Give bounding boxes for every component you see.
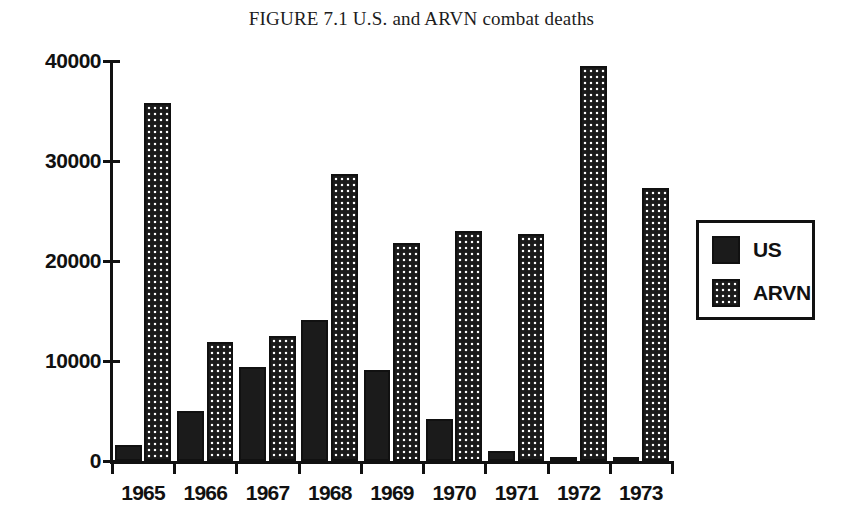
x-axis-tick-label: 1973 bbox=[605, 481, 677, 505]
bar-us-1973 bbox=[613, 457, 640, 461]
bar-arvn-1973 bbox=[642, 188, 669, 461]
x-axis-tick bbox=[671, 461, 674, 474]
bar-arvn-1967 bbox=[269, 336, 296, 461]
legend-label-us: US bbox=[753, 238, 782, 262]
bar-us-1972 bbox=[550, 457, 577, 461]
bar-chart-plot-area: 010000200003000040000 196519661967196819… bbox=[112, 61, 672, 463]
x-axis-tick bbox=[422, 461, 425, 474]
x-axis-tick bbox=[111, 461, 114, 474]
legend-entry-arvn: ARVN bbox=[712, 278, 811, 308]
bar-arvn-1970 bbox=[455, 231, 482, 461]
y-axis-tick-label: 30000 bbox=[45, 149, 101, 173]
x-axis-tick-label: 1970 bbox=[418, 481, 490, 505]
bar-us-1967 bbox=[239, 367, 266, 461]
bar-arvn-1972 bbox=[580, 66, 607, 461]
x-axis-tick bbox=[609, 461, 612, 474]
x-axis-tick-label: 1965 bbox=[107, 481, 179, 505]
page-title: FIGURE 7.1 U.S. and ARVN combat deaths bbox=[0, 8, 843, 30]
bar-us-1968 bbox=[301, 320, 328, 461]
bar-us-1969 bbox=[364, 370, 391, 461]
x-axis-tick bbox=[235, 461, 238, 474]
bar-arvn-1965 bbox=[144, 103, 171, 461]
x-axis-tick-label: 1968 bbox=[294, 481, 366, 505]
legend-swatch-arvn-icon bbox=[712, 279, 740, 307]
legend-label-arvn: ARVN bbox=[753, 281, 811, 305]
x-axis-tick bbox=[547, 461, 550, 474]
x-axis-tick-label: 1969 bbox=[356, 481, 428, 505]
y-axis-tick-label: 20000 bbox=[45, 249, 101, 273]
bar-us-1971 bbox=[488, 451, 515, 461]
x-axis-tick bbox=[298, 461, 301, 474]
legend-entry-us: US bbox=[712, 235, 782, 265]
legend-swatch-us-icon bbox=[712, 236, 740, 264]
y-axis-tick-label: 40000 bbox=[45, 49, 101, 73]
x-axis-tick bbox=[173, 461, 176, 474]
x-axis-tick-label: 1971 bbox=[480, 481, 552, 505]
bar-arvn-1966 bbox=[207, 342, 234, 461]
x-axis-tick-label: 1972 bbox=[543, 481, 615, 505]
x-axis-tick-label: 1966 bbox=[169, 481, 241, 505]
bar-us-1966 bbox=[177, 411, 204, 461]
x-axis-tick bbox=[360, 461, 363, 474]
bar-arvn-1968 bbox=[331, 174, 358, 461]
bar-us-1965 bbox=[115, 445, 142, 461]
figure-page: FIGURE 7.1 U.S. and ARVN combat deaths 0… bbox=[0, 0, 843, 528]
x-axis-tick-label: 1967 bbox=[232, 481, 304, 505]
y-axis-tick-label: 0 bbox=[90, 449, 101, 473]
y-axis-tick bbox=[103, 360, 120, 363]
y-axis-tick-label: 10000 bbox=[45, 349, 101, 373]
y-axis-tick bbox=[103, 160, 120, 163]
x-axis-line bbox=[110, 461, 672, 464]
x-axis-tick bbox=[484, 461, 487, 474]
y-axis-tick bbox=[103, 260, 120, 263]
bar-arvn-1971 bbox=[518, 234, 545, 461]
y-axis-tick bbox=[103, 60, 120, 63]
bar-us-1970 bbox=[426, 419, 453, 461]
bar-arvn-1969 bbox=[393, 243, 420, 461]
chart-legend: US ARVN bbox=[696, 220, 815, 320]
